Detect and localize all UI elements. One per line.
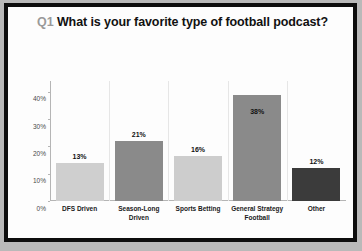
bar-value-label: 13% xyxy=(73,153,87,160)
chart-title: Q1 What is your favorite type of footbal… xyxy=(24,15,341,30)
x-axis-category-label: DFS Driven xyxy=(50,205,109,222)
y-axis-tick-label: 40% xyxy=(33,95,46,102)
bar-value-label: 12% xyxy=(309,158,323,165)
bar-slot[interactable]: 12% xyxy=(287,81,346,201)
bar[interactable] xyxy=(56,163,104,201)
plot-area: 0%10%20%30%40% 13%21%16%38%12% xyxy=(50,81,346,201)
screenshot-root: Q1 What is your favorite type of footbal… xyxy=(0,0,362,251)
bar-value-label: 21% xyxy=(132,131,146,138)
chart-canvas: Q1 What is your favorite type of footbal… xyxy=(8,7,353,238)
bar-slot[interactable]: 38% xyxy=(228,81,287,201)
category-divider xyxy=(109,81,110,201)
x-axis-category-label: General Strategy Football xyxy=(228,205,287,222)
question-number: Q1 xyxy=(37,15,53,29)
category-divider xyxy=(168,81,169,201)
y-axis-tick-label: 0% xyxy=(37,204,46,211)
category-divider xyxy=(287,81,288,201)
bar-value-label: 16% xyxy=(191,146,205,153)
x-axis-category-label: Season-Long Driven xyxy=(109,205,168,222)
category-divider xyxy=(228,81,229,201)
x-axis-labels: DFS DrivenSeason-Long DrivenSports Betti… xyxy=(50,205,346,222)
bar-value-label: 38% xyxy=(250,108,264,115)
bar-series: 13%21%16%38%12% xyxy=(50,81,346,201)
y-axis-tick-label: 20% xyxy=(33,149,46,156)
bar[interactable] xyxy=(115,141,163,201)
y-axis-tick-label: 30% xyxy=(33,122,46,129)
bar-slot[interactable]: 21% xyxy=(109,81,168,201)
bar[interactable] xyxy=(174,156,222,201)
bar[interactable] xyxy=(292,168,340,201)
y-axis-tick-mark xyxy=(48,201,50,202)
chart-title-text: What is your favorite type of football p… xyxy=(57,15,328,29)
chart-frame: Q1 What is your favorite type of footbal… xyxy=(4,3,357,242)
y-axis-tick-label: 10% xyxy=(33,177,46,184)
x-axis-category-label: Sports Betting xyxy=(168,205,227,222)
x-axis-category-label: Other xyxy=(287,205,346,222)
bar-slot[interactable]: 16% xyxy=(168,81,227,201)
bar-slot[interactable]: 13% xyxy=(50,81,109,201)
